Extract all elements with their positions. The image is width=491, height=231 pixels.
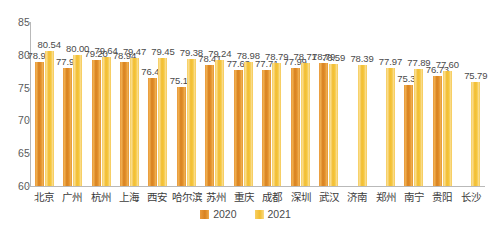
- x-axis-label-3: 上海: [115, 189, 143, 207]
- bar-2021[interactable]: 79.47: [130, 58, 139, 186]
- bar-value-label: 75.79: [464, 70, 487, 81]
- bar-group: 78.39: [343, 22, 371, 186]
- bar-group: 78.4179.24: [201, 22, 229, 186]
- bar-2021[interactable]: 79.45: [158, 58, 167, 186]
- bar-group: 77.9978.71: [286, 22, 314, 186]
- bar-group: 78.9479.47: [115, 22, 143, 186]
- bar-group: 77.9880.00: [58, 22, 86, 186]
- bar-group: 79.2079.64: [87, 22, 115, 186]
- legend-label-2020: 2020: [213, 208, 236, 220]
- y-tick-mark: [27, 186, 31, 187]
- bar-2020[interactable]: 77.99: [291, 68, 300, 186]
- x-axis-label-4: 西安: [143, 189, 171, 207]
- bar-2021[interactable]: 78.59: [329, 64, 338, 186]
- bar-2020[interactable]: 75.38: [404, 85, 413, 186]
- x-axis-labels: 北京广州杭州上海西安哈尔滨苏州重庆成都深圳武汉济南郑州南宁贵阳长沙: [30, 189, 485, 207]
- x-axis-label-9: 深圳: [287, 189, 315, 207]
- bar-2021[interactable]: 78.39: [358, 65, 367, 186]
- bar-value-label: 79.24: [208, 48, 231, 59]
- legend-swatch-2020-icon: [200, 210, 209, 219]
- bar-2021[interactable]: 78.71: [301, 63, 310, 186]
- x-axis-label-13: 南宁: [400, 189, 428, 207]
- bar-2020[interactable]: 76.40: [148, 78, 157, 186]
- bar-2021[interactable]: 79.64: [102, 57, 111, 186]
- bar-value-label: 77.60: [436, 59, 459, 70]
- bar-group: 78.7978.59: [314, 22, 342, 186]
- bar-2021[interactable]: 78.79: [272, 63, 281, 186]
- bar-2020[interactable]: 77.71: [262, 70, 271, 186]
- y-tick-label: 85: [0, 16, 30, 28]
- x-axis-label-15: 长沙: [457, 189, 485, 207]
- bar-2020[interactable]: 77.63: [234, 70, 243, 186]
- bar-chart: 606570758085 78.9380.5477.9880.0079.2079…: [0, 0, 491, 231]
- y-tick-label: 70: [0, 114, 30, 126]
- legend-swatch-2021-icon: [255, 210, 264, 219]
- x-axis-label-7: 重庆: [230, 189, 258, 207]
- bar-group: 75.1479.38: [172, 22, 200, 186]
- bar-2020[interactable]: 79.20: [92, 60, 101, 186]
- bar-2021[interactable]: 77.97: [386, 68, 395, 186]
- x-axis-label-0: 北京: [30, 189, 58, 207]
- legend-item-2020[interactable]: 2020: [200, 208, 236, 220]
- bar-value-label: 80.54: [38, 39, 61, 50]
- bar-group: 77.97: [371, 22, 399, 186]
- x-axis-label-2: 杭州: [87, 189, 115, 207]
- bar-2021[interactable]: 77.89: [414, 69, 423, 186]
- bar-group: 76.4079.45: [144, 22, 172, 186]
- bar-group: 77.7178.79: [258, 22, 286, 186]
- bar-2021[interactable]: 79.24: [215, 60, 224, 186]
- x-axis-label-11: 济南: [343, 189, 371, 207]
- bar-value-label: 78.39: [350, 53, 373, 64]
- bar-value-label: 79.45: [151, 46, 174, 57]
- x-axis-label-5: 哈尔滨: [172, 189, 202, 207]
- bar-value-label: 78.59: [322, 52, 345, 63]
- x-axis-line: [30, 186, 485, 187]
- x-axis-label-12: 郑州: [372, 189, 400, 207]
- bar-2020[interactable]: 78.94: [120, 62, 129, 186]
- bar-2020[interactable]: 78.41: [205, 65, 214, 186]
- bar-group: 78.9380.54: [30, 22, 58, 186]
- y-tick-label: 75: [0, 82, 30, 94]
- x-axis-label-8: 成都: [258, 189, 286, 207]
- bar-2021[interactable]: 75.79: [471, 82, 480, 186]
- bar-group: 75.79: [457, 22, 485, 186]
- x-axis-label-6: 苏州: [202, 189, 230, 207]
- bar-2020[interactable]: 76.73: [433, 76, 442, 186]
- bar-group: 76.7377.60: [428, 22, 456, 186]
- y-tick-label: 60: [0, 180, 30, 192]
- bar-group: 75.3877.89: [400, 22, 428, 186]
- chart-legend: 2020 2021: [0, 208, 491, 220]
- y-tick-label: 65: [0, 147, 30, 159]
- bar-2021[interactable]: 78.98: [244, 62, 253, 187]
- bar-2020[interactable]: 78.79: [319, 63, 328, 186]
- x-axis-label-10: 武汉: [315, 189, 343, 207]
- bar-value-label: 77.97: [379, 56, 402, 67]
- bars-layer: 78.9380.5477.9880.0079.2079.6478.9479.47…: [30, 22, 485, 186]
- x-axis-label-14: 贵阳: [428, 189, 456, 207]
- bar-2020[interactable]: 77.98: [63, 68, 72, 186]
- bar-value-label: 79.47: [123, 46, 146, 57]
- legend-item-2021[interactable]: 2021: [255, 208, 291, 220]
- bar-group: 77.6378.98: [229, 22, 257, 186]
- x-axis-label-1: 广州: [58, 189, 86, 207]
- bar-2020[interactable]: 75.14: [177, 87, 186, 186]
- bar-2021[interactable]: 79.38: [187, 59, 196, 186]
- legend-label-2021: 2021: [268, 208, 291, 220]
- bar-2021[interactable]: 80.00: [73, 55, 82, 186]
- y-tick-label: 80: [0, 49, 30, 61]
- bar-2021[interactable]: 77.60: [443, 71, 452, 186]
- bar-2020[interactable]: 78.93: [35, 62, 44, 186]
- bar-2021[interactable]: 80.54: [45, 51, 54, 186]
